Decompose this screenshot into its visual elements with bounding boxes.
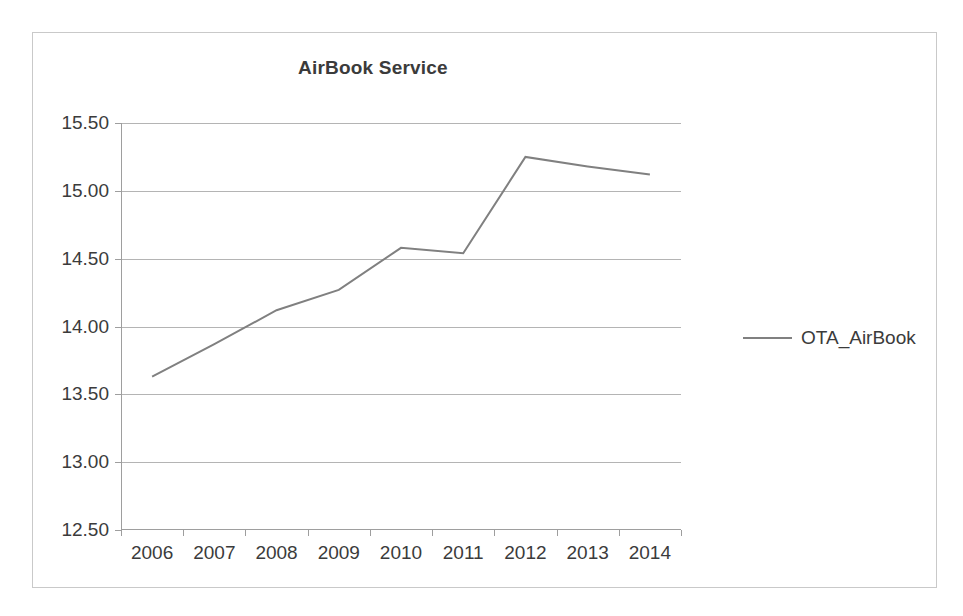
series-line-chart xyxy=(121,123,681,530)
legend-label-ota-airbook: OTA_AirBook xyxy=(801,327,916,349)
x-axis-tick xyxy=(494,530,495,536)
x-axis-tick-label: 2010 xyxy=(380,542,422,564)
x-axis-tick xyxy=(619,530,620,536)
x-axis-tick-label: 2009 xyxy=(318,542,360,564)
x-axis-tick xyxy=(681,530,682,536)
x-axis-tick-label: 2011 xyxy=(443,542,484,564)
plot-area: 15.5015.0014.5014.0013.5013.0012.50 2006… xyxy=(121,123,681,530)
chart-title: AirBook Service xyxy=(33,57,713,79)
y-axis-tick-label: 12.50 xyxy=(61,519,109,541)
y-axis-tick-label: 13.00 xyxy=(61,451,109,473)
y-axis-tick-label: 15.00 xyxy=(61,180,109,202)
x-axis-tick-label: 2012 xyxy=(504,542,546,564)
chart-frame: AirBook Service 15.5015.0014.5014.0013.5… xyxy=(32,32,937,588)
screenshot-root: AirBook Service 15.5015.0014.5014.0013.5… xyxy=(0,0,963,616)
y-axis-tick-label: 15.50 xyxy=(61,112,109,134)
x-axis-tick xyxy=(308,530,309,536)
x-axis-tick-label: 2007 xyxy=(193,542,235,564)
x-axis-tick xyxy=(432,530,433,536)
x-axis-tick xyxy=(183,530,184,536)
x-axis-tick-label: 2008 xyxy=(255,542,297,564)
x-axis-tick xyxy=(121,530,122,536)
x-axis-tick-label: 2013 xyxy=(567,542,609,564)
y-axis-tick-label: 14.50 xyxy=(61,248,109,270)
x-axis-tick xyxy=(245,530,246,536)
x-axis-tick-label: 2006 xyxy=(131,542,173,564)
y-axis-tick-label: 13.50 xyxy=(61,383,109,405)
legend: OTA_AirBook xyxy=(743,327,916,349)
x-axis-tick-label: 2014 xyxy=(629,542,671,564)
x-axis-tick xyxy=(370,530,371,536)
legend-line-swatch xyxy=(743,337,792,339)
y-axis-tick-label: 14.00 xyxy=(61,316,109,338)
series-line-ota-airbook xyxy=(152,157,650,377)
x-axis-tick xyxy=(557,530,558,536)
